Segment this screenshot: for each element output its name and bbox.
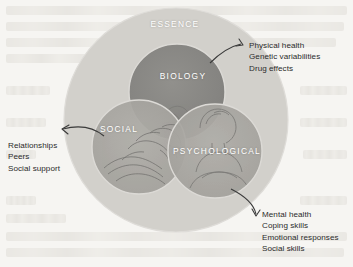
- callout-psychological-line-4: Social skills: [262, 243, 339, 254]
- callout-psychological: Mental health Coping skills Emotional re…: [262, 209, 339, 254]
- callout-psychological-line-2: Coping skills: [262, 220, 339, 231]
- callout-psychological-line-3: Emotional responses: [262, 232, 339, 243]
- callout-biology-line-2: Genetic variabilities: [249, 51, 320, 62]
- callout-social-line-1: Relationships: [8, 140, 60, 151]
- callout-biology-line-1: Physical health: [249, 40, 320, 51]
- callout-social-line-2: Peers: [8, 151, 60, 162]
- label-social: SOCIAL: [100, 124, 138, 134]
- label-biology: BIOLOGY: [160, 71, 206, 81]
- callout-biology-line-3: Drug effects: [249, 63, 320, 74]
- label-psychological: PSYCHOLOGICAL: [173, 146, 261, 156]
- callout-psychological-line-1: Mental health: [262, 209, 339, 220]
- callout-social: Relationships Peers Social support: [8, 140, 60, 174]
- callout-social-line-3: Social support: [8, 163, 60, 174]
- callout-biology: Physical health Genetic variabilities Dr…: [249, 40, 320, 74]
- label-essence: ESSENCE: [151, 19, 200, 29]
- figure-page: ESSENCE BIOLOGY SOCIAL PSYCHOLOGICAL Phy…: [0, 0, 353, 267]
